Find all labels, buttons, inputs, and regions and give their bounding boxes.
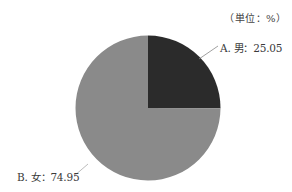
unit-label: （単位：%） [224,10,287,25]
pie-slice-male [148,36,221,109]
slice-label-female: B. 女：74.95 [17,169,79,184]
pie-chart: （単位：%） A. 男：25.05 B. 女：74.95 [0,0,292,192]
leader-line-a [199,46,218,59]
slice-label-male: A. 男：25.05 [220,40,282,55]
pie-slices [76,36,221,181]
pie-chart-svg [0,0,292,192]
